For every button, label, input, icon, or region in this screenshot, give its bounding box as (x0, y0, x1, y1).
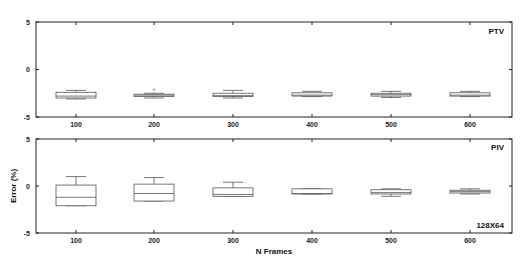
ptv-box-500 (371, 91, 411, 97)
piv-box-400 (292, 189, 332, 194)
piv-boxes (36, 139, 512, 233)
iqr-box (56, 92, 96, 98)
ptv-xtick-400: 400 (306, 121, 318, 128)
ptv-box-300 (213, 90, 253, 98)
iqr-box (56, 185, 96, 206)
piv-box-500 (371, 189, 411, 197)
piv-xtick-300: 300 (227, 237, 239, 244)
outlier-marker: + (153, 86, 156, 92)
ptv-box-400 (292, 91, 332, 96)
piv-x-tick-labels: 100 200 300 400 500 600 (70, 237, 476, 244)
ptv-xtick-500: 500 (385, 121, 397, 128)
piv-box-300 (213, 182, 253, 196)
ptv-box-600 (450, 91, 490, 96)
ptv-box-100 (56, 90, 96, 99)
piv-xtick-200: 200 (148, 237, 160, 244)
y-axis-title: Error (%) (9, 169, 18, 204)
ptv-ytick-0: 0 (26, 66, 30, 73)
ptv-ytick-neg5: -5 (24, 114, 30, 121)
piv-plot-frame (36, 139, 512, 233)
ptv-xtick-200: 200 (148, 121, 160, 128)
ptv-xtick-300: 300 (227, 121, 239, 128)
piv-ytick-neg5: -5 (24, 230, 30, 237)
piv-ytick-5: 5 (26, 136, 30, 143)
piv-box-600 (450, 189, 490, 194)
piv-xtick-100: 100 (70, 237, 82, 244)
iqr-box (371, 190, 411, 194)
x-axis-title: N Frames (256, 247, 293, 256)
ptv-boxes: + (36, 22, 512, 117)
ptv-x-tick-labels: 100 200 300 400 500 600 (70, 121, 476, 128)
piv-ytick-0: 0 (26, 183, 30, 190)
piv-xtick-600: 600 (464, 237, 476, 244)
ptv-panel-label: PTV (488, 27, 504, 36)
iqr-box (292, 93, 332, 96)
ptv-xtick-100: 100 (70, 121, 82, 128)
piv-box-200 (134, 178, 174, 202)
ptv-panel: 5 0 -5 PTV 100 200 300 400 500 600 + (24, 19, 512, 128)
ptv-xtick-600: 600 (464, 121, 476, 128)
piv-xtick-500: 500 (385, 237, 397, 244)
piv-box-100 (56, 177, 96, 206)
piv-panel-label: PIV (491, 143, 505, 152)
iqr-box (213, 93, 253, 96)
iqr-box (450, 93, 490, 96)
iqr-box (134, 184, 174, 201)
ptv-plot-frame (36, 22, 512, 117)
resolution-annotation: 128X64 (476, 221, 504, 230)
piv-xtick-400: 400 (306, 237, 318, 244)
box-plot-figure: 5 0 -5 PTV 100 200 300 400 500 600 + 5 0… (0, 0, 530, 263)
piv-panel: 5 0 -5 PIV 128X64 100 200 300 400 500 60… (24, 136, 512, 244)
ptv-box-200: + (134, 86, 174, 98)
iqr-box (213, 188, 253, 196)
ptv-ytick-5: 5 (26, 19, 30, 26)
